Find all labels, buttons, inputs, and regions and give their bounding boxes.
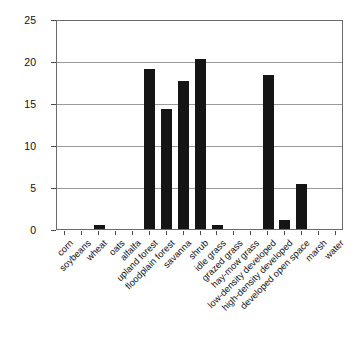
x-tick-mark-idle-grass [216, 231, 217, 235]
x-tick-mark-low-density-developed [267, 231, 268, 235]
x-tick-mark-high-density-developed [284, 231, 285, 235]
bar-wheat [94, 225, 105, 229]
bar-developed-open-space [296, 184, 307, 229]
y-tick-label-10: 10 [10, 141, 36, 151]
x-tick-mark-grazed-grass [233, 231, 234, 235]
x-tick-mark-alfalfa [132, 231, 133, 235]
y-tick-mark-0 [51, 230, 56, 231]
y-tick-label-0: 0 [10, 225, 36, 235]
plot-area [56, 20, 343, 230]
bar-upland-forest [144, 69, 155, 229]
y-tick-label-20: 20 [10, 57, 36, 67]
bar-high-density-developed [279, 220, 290, 229]
bar-savanna [178, 81, 189, 229]
x-tick-mark-wheat [98, 231, 99, 235]
x-tick-mark-marsh [318, 231, 319, 235]
bar-idle-grass [212, 225, 223, 229]
x-tick-mark-soybeans [81, 231, 82, 235]
y-tick-label-25: 25 [10, 15, 36, 25]
y-tick-label-5: 5 [10, 183, 36, 193]
x-tick-mark-savanna [183, 231, 184, 235]
bar-chart-figure: Northern Cardinals/100 acres 0510152025 … [0, 0, 353, 341]
x-tick-mark-corn [64, 231, 65, 235]
y-tick-label-15: 15 [10, 99, 36, 109]
bar-floodplain-forest [161, 109, 172, 229]
x-tick-mark-oats [115, 231, 116, 235]
x-tick-mark-floodplain-forest [166, 231, 167, 235]
x-tick-mark-upland-forest [149, 231, 150, 235]
bar-low-density-developed [263, 75, 274, 229]
x-tick-mark-water [335, 231, 336, 235]
x-tick-mark-developed-open-space [301, 231, 302, 235]
x-tick-mark-shrub [200, 231, 201, 235]
x-tick-mark-hay-mow-grass [250, 231, 251, 235]
bar-shrub [195, 59, 206, 229]
